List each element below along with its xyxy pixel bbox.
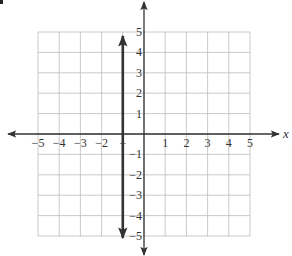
axes bbox=[8, 2, 279, 255]
y-tick-label: −5 bbox=[129, 229, 142, 243]
x-tick-label: 5 bbox=[247, 136, 253, 150]
x-tick-label: 3 bbox=[205, 136, 211, 150]
x-tick-label: 1 bbox=[162, 136, 168, 150]
y-tick-label: 1 bbox=[136, 107, 142, 121]
y-tick-label: 5 bbox=[136, 25, 142, 39]
y-tick-label: 4 bbox=[136, 45, 142, 59]
y-tick-label: −3 bbox=[129, 188, 142, 202]
y-tick-label: −4 bbox=[129, 209, 142, 223]
y-tick-label: −2 bbox=[129, 168, 142, 182]
x-tick-label: 4 bbox=[226, 136, 232, 150]
x-tick-label: −5 bbox=[32, 136, 45, 150]
x-axis-label: x bbox=[282, 126, 289, 141]
x-tick-label: −4 bbox=[53, 136, 66, 150]
y-tick-label: 3 bbox=[136, 66, 142, 80]
x-tick-label: −3 bbox=[74, 136, 87, 150]
x-tick-label: 2 bbox=[183, 136, 189, 150]
x-tick-label: −2 bbox=[95, 136, 108, 150]
y-tick-label: 2 bbox=[136, 86, 142, 100]
coordinate-plane: −5−4−3−2−1234554321−1−2−3−4−5 x bbox=[0, 0, 292, 256]
y-tick-label: −1 bbox=[129, 147, 142, 161]
